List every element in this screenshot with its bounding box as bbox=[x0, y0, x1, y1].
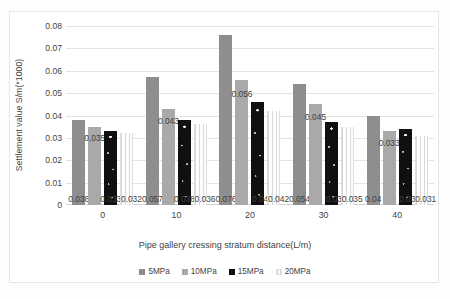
bar-label-30-5MPa: 0.054 bbox=[289, 194, 310, 204]
x-tick-0: 0 bbox=[100, 210, 105, 220]
bar-label-40-5MPa: 0.04 bbox=[365, 194, 381, 204]
legend-item-15MPa[interactable]: 15MPa bbox=[229, 267, 264, 276]
bar-label-30-10MPa: 0.045 bbox=[305, 112, 326, 122]
y-tick-0.07: 0.07 bbox=[28, 43, 62, 53]
chart-legend: 5MPa 10MPa 15MPa 20MPa bbox=[0, 267, 450, 276]
legend-label-10MPa: 10MPa bbox=[191, 267, 217, 276]
bar-group-40: 0.04 0.033 0.034 0.031 bbox=[360, 26, 434, 205]
x-tick-10: 10 bbox=[171, 210, 181, 220]
bar-label-0-10MPa: 0.035 bbox=[84, 133, 105, 143]
bar-label-40-20MPa: 0.031 bbox=[415, 194, 436, 204]
legend-label-5MPa: 5MPa bbox=[148, 267, 169, 276]
y-tick-0.04: 0.04 bbox=[28, 111, 62, 121]
bar-chart: Settlement value S/m(*1000) 0.08 0.07 0.… bbox=[0, 0, 450, 299]
legend-swatch-icon-10MPa bbox=[182, 269, 188, 275]
legend-swatch-icon-20MPa bbox=[276, 269, 282, 275]
legend-label-15MPa: 15MPa bbox=[238, 267, 264, 276]
y-tick-0.03: 0.03 bbox=[28, 133, 62, 143]
bar-label-40-10MPa: 0.033 bbox=[379, 138, 400, 148]
bar-group-20: 0.076 0.056 0.046 0.042 bbox=[213, 26, 287, 205]
legend-label-20MPa: 20MPa bbox=[285, 267, 311, 276]
y-tick-0.01: 0.01 bbox=[28, 178, 62, 188]
x-axis-title: Pipe gallery cressing stratum distance(L… bbox=[0, 240, 450, 250]
bar-group-10: 0.057 0.043 0.038 0.036 bbox=[140, 26, 214, 205]
legend-item-5MPa[interactable]: 5MPa bbox=[139, 267, 169, 276]
bar-label-0-5MPa: 0.038 bbox=[68, 194, 89, 204]
x-tick-40: 40 bbox=[392, 210, 402, 220]
y-axis-title: Settlement value S/m(*1000) bbox=[14, 30, 24, 200]
y-tick-0.02: 0.02 bbox=[28, 155, 62, 165]
x-tick-20: 20 bbox=[245, 210, 255, 220]
bar-label-0-15MPa: 0.033 bbox=[100, 194, 121, 204]
y-tick-0.08: 0.08 bbox=[28, 21, 62, 31]
y-tick-0.06: 0.06 bbox=[28, 66, 62, 76]
bar-label-20-10MPa: 0.056 bbox=[232, 89, 253, 99]
x-axis-tick-labels: 0 10 20 30 40 bbox=[66, 210, 434, 226]
y-axis-tick-labels: 0.08 0.07 0.06 0.05 0.04 0.03 0.02 0.01 … bbox=[28, 0, 62, 299]
legend-item-10MPa[interactable]: 10MPa bbox=[182, 267, 217, 276]
bar-label-10-5MPa: 0.057 bbox=[142, 194, 163, 204]
plot-area: 0.038 0.035 0.033 0.032 bbox=[66, 26, 434, 205]
y-tick-0: 0 bbox=[28, 200, 62, 210]
bar-label-20-5MPa: 0.076 bbox=[216, 194, 237, 204]
x-tick-30: 30 bbox=[319, 210, 329, 220]
bar-label-10-15MPa: 0.038 bbox=[174, 194, 195, 204]
legend-swatch-icon-15MPa bbox=[229, 269, 235, 275]
y-tick-0.05: 0.05 bbox=[28, 88, 62, 98]
bar-group-0: 0.038 0.035 0.033 0.032 bbox=[66, 26, 140, 205]
bar-group-30: 0.054 0.045 0.037 0.035 bbox=[287, 26, 361, 205]
bar-label-10-10MPa: 0.043 bbox=[158, 116, 179, 126]
legend-swatch-icon-5MPa bbox=[139, 269, 145, 275]
legend-item-20MPa[interactable]: 20MPa bbox=[276, 267, 311, 276]
